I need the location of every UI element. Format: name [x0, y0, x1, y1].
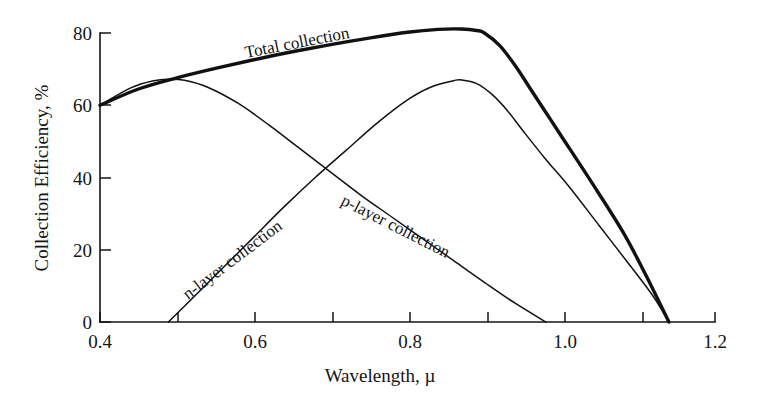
y-axis-title: Collection Efficiency, %	[31, 84, 52, 271]
x-axis-ticks	[100, 312, 715, 322]
series-curve-total	[100, 29, 669, 322]
y-axis-tick-labels: 80 60 40 20 0	[73, 23, 92, 333]
series-curve-n-layer	[168, 80, 668, 322]
x-tick-label-1-0: 1.0	[553, 331, 577, 352]
chart-figure: 80 60 40 20 0 0.4 0.6 0.8 1.0 1.2 Wa	[0, 0, 760, 401]
y-tick-label-40: 40	[73, 168, 92, 189]
x-tick-label-0-4: 0.4	[88, 331, 112, 352]
total-collection-label: Total collection	[243, 23, 351, 62]
series-curve-p-layer	[100, 79, 546, 322]
y-tick-label-0: 0	[83, 312, 93, 333]
p-layer-collection-label: p-layer collection	[338, 191, 453, 262]
x-tick-label-1-2: 1.2	[703, 331, 727, 352]
y-tick-label-80: 80	[73, 23, 92, 44]
x-axis-title: Wavelength, µ	[325, 365, 436, 386]
n-layer-collection-label: n-layer collection	[179, 216, 286, 303]
x-tick-label-0-8: 0.8	[398, 331, 422, 352]
y-tick-label-60: 60	[73, 95, 92, 116]
y-axis-ticks	[100, 33, 111, 322]
x-axis-tick-labels: 0.4 0.6 0.8 1.0 1.2	[88, 331, 727, 352]
y-tick-label-20: 20	[73, 240, 92, 261]
x-tick-label-0-6: 0.6	[243, 331, 267, 352]
chart-plot-area: 80 60 40 20 0 0.4 0.6 0.8 1.0 1.2 Wa	[0, 0, 760, 401]
